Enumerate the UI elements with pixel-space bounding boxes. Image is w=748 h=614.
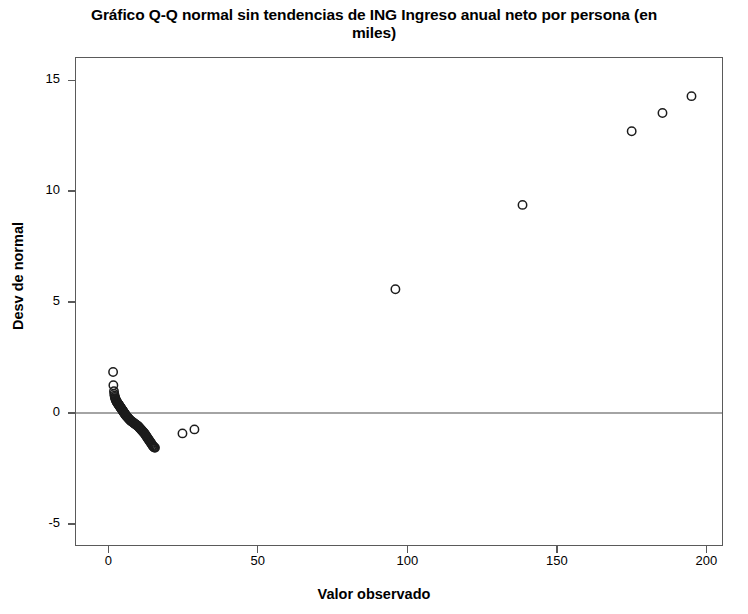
data-point — [190, 425, 198, 433]
y-axis-tick-label: 15 — [14, 71, 60, 86]
chart-title-line1: Gráfico Q-Q normal sin tendencias de ING… — [91, 6, 657, 23]
data-point — [109, 368, 117, 376]
data-point — [178, 429, 186, 437]
y-axis-tick-mark — [68, 190, 75, 191]
x-axis-tick-mark — [706, 546, 707, 553]
chart-title-line2: miles) — [352, 24, 396, 41]
x-axis-tick-mark — [556, 546, 557, 553]
data-point-group — [109, 92, 696, 452]
data-point — [518, 201, 526, 209]
y-axis-tick-mark — [68, 301, 75, 302]
data-point — [687, 92, 695, 100]
plot-frame — [75, 57, 723, 546]
x-axis-tick-label: 200 — [676, 553, 736, 568]
y-axis-tick-label: -5 — [14, 515, 60, 530]
x-axis-tick-label: 0 — [78, 553, 138, 568]
chart-title: Gráfico Q-Q normal sin tendencias de ING… — [10, 6, 738, 43]
scatter-plot-svg — [76, 58, 722, 545]
x-axis-tick-mark — [257, 546, 258, 553]
x-axis-tick-label: 100 — [377, 553, 437, 568]
x-axis-tick-label: 50 — [228, 553, 288, 568]
x-axis-tick-mark — [108, 546, 109, 553]
x-axis-tick-mark — [407, 546, 408, 553]
y-axis-tick-mark — [68, 523, 75, 524]
y-axis-title: Desv de normal — [10, 176, 26, 376]
data-point — [391, 285, 399, 293]
plot-area — [76, 58, 722, 545]
y-axis-tick-label: 0 — [14, 404, 60, 419]
y-axis-tick-mark — [68, 80, 75, 81]
x-axis-title: Valor observado — [0, 586, 748, 602]
y-axis-tick-mark — [68, 412, 75, 413]
x-axis-tick-label: 150 — [527, 553, 587, 568]
data-point — [627, 127, 635, 135]
data-point — [658, 109, 666, 117]
qq-plot-chart: Gráfico Q-Q normal sin tendencias de ING… — [0, 0, 748, 614]
